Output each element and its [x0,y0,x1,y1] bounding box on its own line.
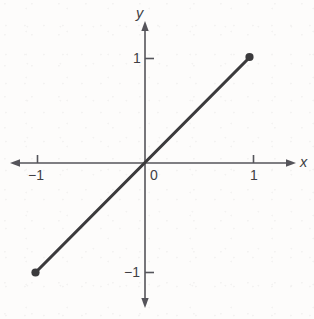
x-axis-arrow-left [10,159,20,166]
line-segment [36,57,251,273]
x-axis-group [10,155,296,167]
y-tick-label-minus-one: −1 [124,265,140,279]
figure-canvas: y x 1 −1 −1 1 0 [0,0,314,319]
x-tick-label-one: 1 [250,168,258,182]
x-tick-label-minus-one: −1 [28,168,44,182]
y-tick-label-one: 1 [133,51,141,65]
endpoint-marker-lower-left [31,268,39,276]
graph-plot-area [0,0,314,319]
x-axis-label: x [300,155,307,170]
endpoint-marker-upper-right [245,53,253,61]
x-axis-arrow-right [286,159,296,166]
y-axis-arrow-down [141,298,148,308]
series-y-equals-x [31,53,253,277]
y-axis-label: y [136,6,143,21]
y-axis-arrow-up [141,21,148,31]
origin-label: 0 [150,168,158,182]
